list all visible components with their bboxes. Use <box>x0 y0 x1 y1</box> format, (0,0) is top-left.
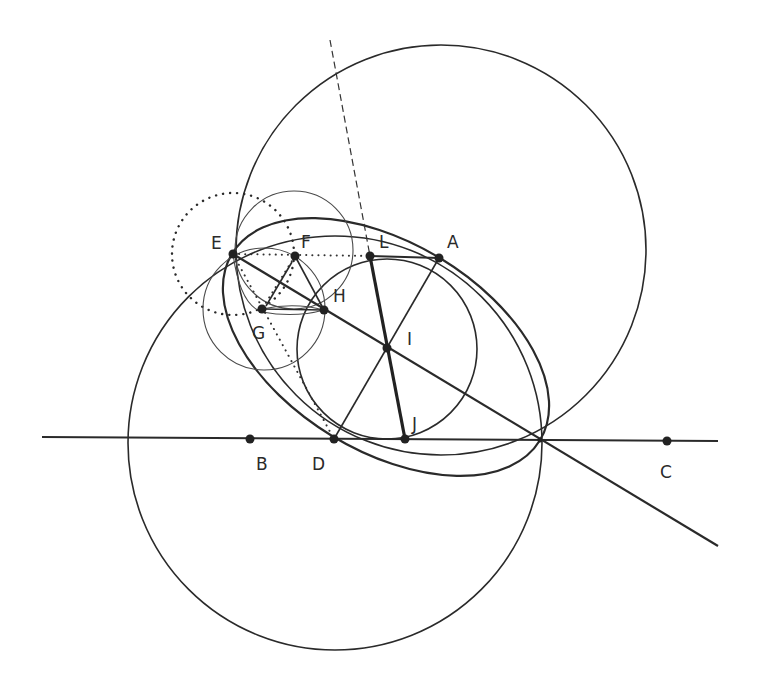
point-g <box>258 305 267 314</box>
label-b: B <box>256 454 268 474</box>
geometry-diagram: E F L A H G I J B D C <box>0 0 757 688</box>
label-l: L <box>379 232 389 252</box>
dotted-segment-el <box>233 254 370 256</box>
label-h: H <box>333 286 346 306</box>
upper-large-circle <box>236 45 646 455</box>
point-l <box>366 252 375 261</box>
label-c: C <box>660 462 672 482</box>
point-f <box>291 252 300 261</box>
point-j <box>401 435 410 444</box>
dashed-line <box>330 40 370 256</box>
segment-g-f-solid <box>266 262 292 306</box>
point-h <box>320 306 329 315</box>
point-x <box>538 438 543 443</box>
point-i <box>383 344 392 353</box>
label-a: A <box>447 232 459 252</box>
line-bc <box>42 437 718 441</box>
segment-gh-solid <box>262 309 324 310</box>
point-d <box>330 435 339 444</box>
line-e-h-i <box>233 254 718 546</box>
label-d: D <box>312 454 325 474</box>
label-i: I <box>407 329 412 349</box>
label-e: E <box>211 233 222 253</box>
label-f: F <box>301 232 311 252</box>
point-b <box>246 435 255 444</box>
points <box>229 250 672 446</box>
segment-la <box>370 256 439 258</box>
label-g: G <box>252 323 265 343</box>
label-j: J <box>411 414 417 434</box>
point-e <box>229 250 238 259</box>
point-a <box>435 254 444 263</box>
point-c <box>663 437 672 446</box>
